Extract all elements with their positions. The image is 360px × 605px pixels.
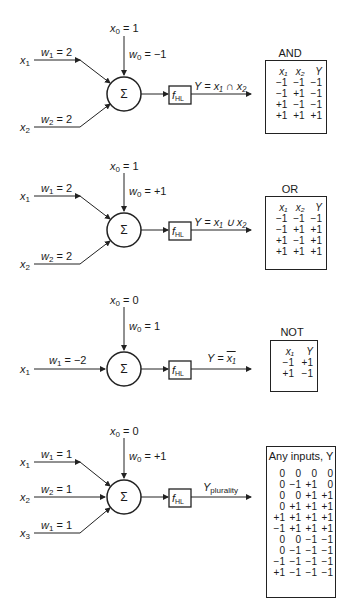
output-label: Y = x₁ ∩ x₂ bbox=[194, 80, 246, 92]
bias-weight-label: w0 = −1 bbox=[129, 48, 166, 64]
output-label: Yplurality bbox=[203, 481, 238, 497]
table-row: 0000 bbox=[267, 468, 335, 479]
activation-function-box: fHL bbox=[172, 492, 184, 508]
table-row: −1−1−1 bbox=[266, 77, 326, 88]
summation-node: Σ bbox=[114, 88, 134, 100]
truth-table-and: x₁x₂Y −1−1−1 −1+1−1 +1−1−1 +1+1+1 bbox=[265, 60, 327, 134]
truth-table-not: x₁Y −1+1 +1−1 bbox=[270, 340, 318, 392]
input-x2-label: x2 bbox=[20, 258, 30, 274]
bias-input-label: x0 = 1 bbox=[110, 22, 139, 38]
bias-input-label: x0 = 1 bbox=[110, 160, 139, 176]
truth-table-or: x₁x₂Y −1−1−1 −1+1+1 +1−1+1 +1+1+1 bbox=[265, 196, 327, 270]
input-x3-label: x3 bbox=[20, 527, 30, 543]
activation-function-box: fHL bbox=[172, 364, 184, 380]
table-row: 00+1+1 bbox=[267, 490, 335, 501]
table-row: 0−1−1−1 bbox=[267, 545, 335, 556]
table-row: −1−1−1 bbox=[266, 213, 326, 224]
weight-w2-label: w2 = 2 bbox=[41, 113, 72, 129]
table-row: −1−1−1−1 bbox=[267, 556, 335, 567]
bias-weight-label: w0 = +1 bbox=[129, 450, 166, 466]
input-x1-label: x1 bbox=[20, 54, 30, 70]
truth-table-title: Any inputs, Y bbox=[267, 450, 335, 462]
truth-table-title: OR bbox=[260, 183, 320, 195]
table-row: 00−1−1 bbox=[267, 534, 335, 545]
table-row: −1+1+1+1 bbox=[267, 523, 335, 534]
weight-w1-label: w1 = −2 bbox=[49, 354, 86, 370]
bias-weight-label: w0 = +1 bbox=[129, 185, 166, 201]
weight-w2-label: w2 = 1 bbox=[41, 483, 72, 499]
table-header: x₁x₂Y bbox=[266, 66, 326, 77]
table-row: +1−1−1−1 bbox=[267, 567, 335, 578]
weight-w1-label: w1 = 2 bbox=[41, 182, 72, 198]
output-label: Y = x₁ bbox=[207, 352, 236, 364]
summation-node: Σ bbox=[114, 224, 134, 236]
weight-w1-label: w1 = 1 bbox=[41, 448, 72, 464]
bias-input-label: x0 = 0 bbox=[110, 425, 139, 441]
table-row: +1+1+1 bbox=[266, 246, 326, 257]
truth-table-title: AND bbox=[260, 47, 320, 59]
table-row: −1+1−1 bbox=[266, 88, 326, 99]
table-row: −1+1+1 bbox=[266, 224, 326, 235]
input-x2-label: x2 bbox=[20, 491, 30, 507]
table-row: +1−1+1 bbox=[266, 235, 326, 246]
input-x1-label: x1 bbox=[20, 363, 30, 379]
table-row: 0−1+10 bbox=[267, 479, 335, 490]
truth-table-plurality: Any inputs, Y 0000 0−1+10 00+1+1 0+1+1+1… bbox=[266, 446, 336, 598]
input-x1-label: x1 bbox=[20, 456, 30, 472]
input-x2-label: x2 bbox=[20, 121, 30, 137]
weight-w2-label: w2 = 2 bbox=[41, 250, 72, 266]
table-row: +1+1+1+1 bbox=[267, 512, 335, 523]
activation-function-box: fHL bbox=[172, 89, 184, 105]
bias-input-label: x0 = 0 bbox=[110, 294, 139, 310]
bias-weight-label: w0 = 1 bbox=[129, 320, 160, 336]
table-row: −1+1 bbox=[271, 357, 317, 368]
summation-node: Σ bbox=[114, 363, 134, 375]
table-row: 0+1+1+1 bbox=[267, 501, 335, 512]
table-row: +1+1+1 bbox=[266, 110, 326, 121]
truth-table-title: NOT bbox=[268, 326, 316, 338]
table-row: +1−1 bbox=[271, 368, 317, 379]
weight-w3-label: w1 = 1 bbox=[41, 519, 72, 535]
output-label: Y = x₁ ∪ x₂ bbox=[194, 216, 246, 228]
summation-node: Σ bbox=[114, 491, 134, 503]
table-header: x₁Y bbox=[271, 346, 317, 357]
input-x1-label: x1 bbox=[20, 190, 30, 206]
activation-function-box: fHL bbox=[172, 225, 184, 241]
table-row: +1−1−1 bbox=[266, 99, 326, 110]
weight-w1-label: w1 = 2 bbox=[41, 46, 72, 62]
table-header: x₁x₂Y bbox=[266, 202, 326, 213]
